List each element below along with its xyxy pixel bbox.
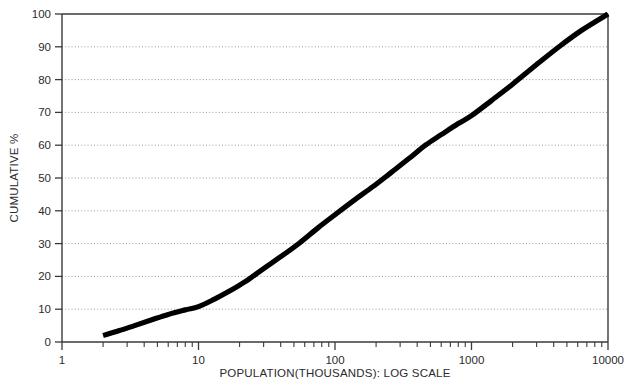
y-axis-tick-label: 60 [38,139,51,151]
y-axis-tick-label: 90 [38,41,51,53]
chart-container: 110100100010000 0102030405060708090100 P… [0,0,629,390]
y-axis-tick-label: 10 [38,303,51,315]
cumulative-population-log-chart: 110100100010000 0102030405060708090100 P… [0,0,629,390]
y-axis-tick-label: 20 [38,270,51,282]
y-axis-tick-label: 50 [38,172,51,184]
y-axis-tick-label: 70 [38,106,51,118]
x-axis-tick-label: 1000 [459,354,485,366]
x-axis-tick-label: 100 [325,354,344,366]
x-axis-tick-label: 10 [192,354,205,366]
x-axis-tick-label: 1 [59,354,65,366]
y-axis-title: CUMULATIVE % [8,133,20,222]
y-axis-tick-label: 0 [45,336,51,348]
x-axis-title: POPULATION(THOUSANDS): LOG SCALE [219,367,450,379]
chart-background [0,0,629,390]
y-axis-tick-label: 80 [38,74,51,86]
y-axis-tick-label: 30 [38,238,51,250]
x-axis-tick-label: 10000 [592,354,624,366]
y-axis-tick-label: 40 [38,205,51,217]
y-axis-tick-label: 100 [32,8,51,20]
